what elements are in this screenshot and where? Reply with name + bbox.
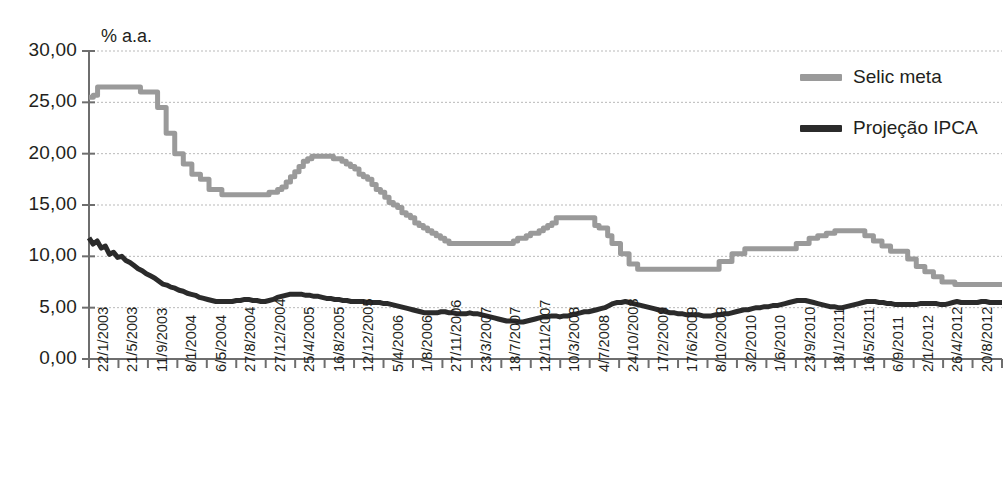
y-tick-label: 5,00 bbox=[39, 296, 77, 318]
x-tick-label: 10/3/2008 bbox=[566, 307, 582, 372]
x-tick-label: 17/2/2009 bbox=[655, 307, 671, 372]
legend-label: Projeção IPCA bbox=[853, 117, 978, 139]
x-tick-label: 21/5/2003 bbox=[124, 307, 140, 372]
x-tick-label: 12/12/2005 bbox=[360, 298, 376, 372]
legend-selic-meta: Selic meta bbox=[800, 66, 942, 88]
x-tick-label: 20/8/2012 bbox=[979, 307, 995, 372]
y-tick-label: 10,00 bbox=[28, 244, 77, 266]
x-tick-label: 1/8/2006 bbox=[419, 315, 435, 372]
x-tick-label: 17/6/2009 bbox=[684, 307, 700, 372]
x-tick-label: 5/4/2006 bbox=[390, 315, 406, 372]
x-tick-label: 2/1/2012 bbox=[920, 315, 936, 372]
x-tick-label: 27/12/2004 bbox=[272, 298, 288, 372]
selic-ipca-chart: % a.a. 0,005,0010,0015,0020,0025,0030,00… bbox=[0, 0, 1006, 477]
legend-swatch-icon bbox=[800, 74, 842, 81]
y-tick-label: 25,00 bbox=[28, 90, 77, 112]
x-tick-label: 1/6/2010 bbox=[772, 315, 788, 372]
x-tick-label: 23/9/2010 bbox=[802, 307, 818, 372]
x-tick-label: 6/5/2004 bbox=[213, 315, 229, 372]
y-tick-label: 30,00 bbox=[28, 39, 77, 61]
y-tick-label: 15,00 bbox=[28, 193, 77, 215]
x-tick-label: 8/1/2004 bbox=[183, 315, 199, 372]
x-tick-label: 18/7/2007 bbox=[507, 307, 523, 372]
legend-label: Selic meta bbox=[853, 66, 942, 88]
x-tick-label: 8/10/2009 bbox=[713, 307, 729, 372]
x-tick-label: 26/4/2012 bbox=[949, 307, 965, 372]
y-tick-label: 0,00 bbox=[39, 347, 77, 369]
x-tick-label: 27/8/2004 bbox=[242, 307, 258, 372]
x-tick-label: 23/3/2007 bbox=[478, 307, 494, 372]
x-tick-label: 4/7/2008 bbox=[596, 315, 612, 372]
x-tick-label: 16/5/2011 bbox=[861, 308, 877, 372]
legend-swatch-icon bbox=[800, 125, 842, 132]
x-tick-label: 24/10/2008 bbox=[625, 298, 641, 372]
x-tick-label: 18/1/2011 bbox=[831, 308, 847, 372]
x-tick-label: 12/11/2007 bbox=[537, 300, 553, 373]
x-tick-label: 3/2/2010 bbox=[743, 315, 759, 372]
x-tick-label: 16/8/2005 bbox=[331, 307, 347, 372]
x-tick-label: 27/11/2006 bbox=[448, 300, 464, 373]
legend-projecao-ipca: Projeção IPCA bbox=[800, 117, 978, 139]
x-tick-label: 6/9/2011 bbox=[890, 316, 906, 372]
y-tick-label: 20,00 bbox=[28, 142, 77, 164]
x-tick-label: 25/4/2005 bbox=[301, 307, 317, 372]
x-tick-label: 22/1/2003 bbox=[95, 307, 111, 372]
x-tick-label: 11/9/2003 bbox=[154, 308, 170, 372]
